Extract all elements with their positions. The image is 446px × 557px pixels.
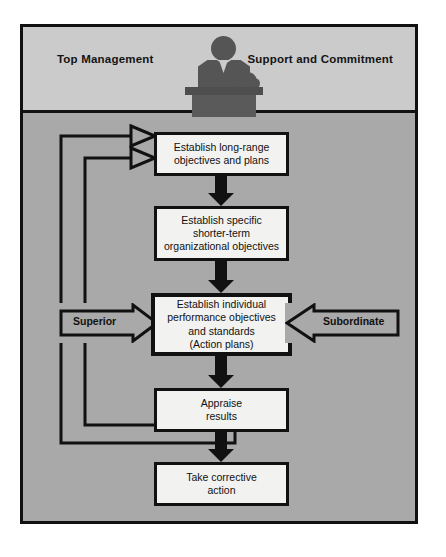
diagram-canvas: Top Management Support and Commitment bbox=[0, 0, 446, 557]
header-left-label: Top Management bbox=[57, 53, 154, 65]
diagram-frame: Top Management Support and Commitment bbox=[20, 24, 418, 524]
process-box-take-corrective-action[interactable]: Take corrective action bbox=[154, 462, 289, 506]
manager-at-desk-icon bbox=[183, 31, 265, 113]
subordinate-label: Subordinate bbox=[323, 315, 384, 327]
inner-feedback-path bbox=[85, 158, 195, 425]
connector-arrow-2 bbox=[208, 261, 234, 293]
process-box-appraise-results[interactable]: Appraise results bbox=[154, 388, 289, 432]
header-right-label: Support and Commitment bbox=[247, 53, 393, 65]
process-box-establish-shorter-term-objectives[interactable]: Establish specific shorter-term organiza… bbox=[154, 206, 289, 261]
process-box-establish-individual-objectives[interactable]: Establish individual performance objecti… bbox=[151, 293, 292, 356]
diagram-body: Establish long-range objectives and plan… bbox=[23, 113, 415, 521]
desk-top-icon bbox=[185, 87, 263, 95]
process-box-4-label: Appraise results bbox=[197, 397, 246, 423]
subordinate-arrow: Subordinate bbox=[285, 303, 400, 343]
process-box-5-label: Take corrective action bbox=[182, 471, 261, 497]
inner-feedback-arrowhead bbox=[131, 148, 155, 168]
process-box-1-label: Establish long-range objectives and plan… bbox=[170, 141, 274, 167]
connector-arrow-3 bbox=[208, 356, 234, 388]
superior-arrow: Superior bbox=[59, 303, 159, 343]
connector-arrow-1 bbox=[208, 176, 234, 206]
person-head-icon bbox=[211, 36, 236, 61]
process-box-establish-long-range-objectives[interactable]: Establish long-range objectives and plan… bbox=[154, 132, 289, 176]
connector-arrow-4 bbox=[208, 432, 234, 462]
process-box-2-label: Establish specific shorter-term organiza… bbox=[160, 214, 283, 253]
process-box-3-label: Establish individual performance objecti… bbox=[163, 298, 280, 351]
superior-label: Superior bbox=[73, 315, 116, 327]
header-band: Top Management Support and Commitment bbox=[23, 27, 415, 113]
outer-feedback-arrowhead bbox=[131, 126, 155, 146]
